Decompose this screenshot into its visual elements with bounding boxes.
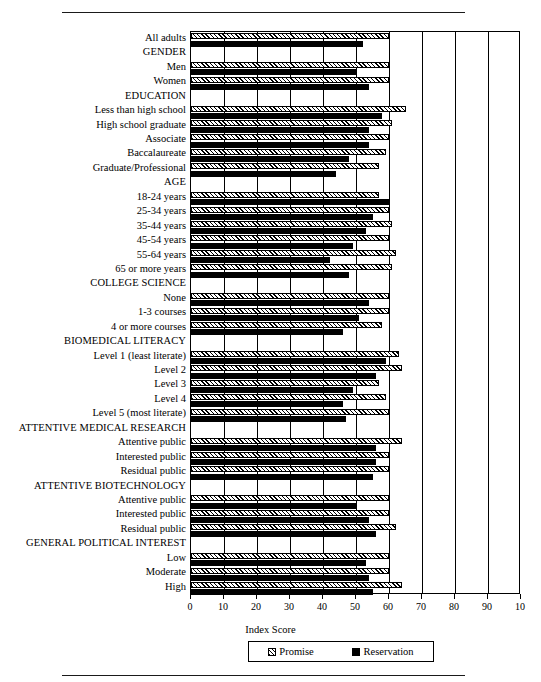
x-tick [223,594,224,599]
category-label: Level 1 (least literate) [0,349,186,363]
legend-label-reservation: Reservation [363,646,413,657]
x-tick-label: 90 [472,601,502,612]
chart-row [191,90,519,104]
x-axis-title: Index Score [0,624,541,635]
x-tick-label: 30 [274,601,304,612]
chart-row [191,119,519,133]
category-label: Attentive public [0,435,186,449]
plot-area [190,31,520,594]
chart-row [191,176,519,190]
chart-row [191,378,519,392]
category-label: None [0,291,186,305]
category-label: Level 3 [0,377,186,391]
category-label: Level 4 [0,392,186,406]
bar-promise [191,207,389,213]
category-label: BIOMEDICAL LITERACY [0,334,186,348]
chart-row [191,537,519,551]
category-label: Low [0,551,186,565]
bar-promise [191,192,379,198]
category-label: 55-64 years [0,248,186,262]
chart-row [191,508,519,522]
x-tick [487,594,488,599]
chart-row [191,32,519,46]
category-label: Interested public [0,450,186,464]
chart-row [191,552,519,566]
chart-row [191,350,519,364]
x-tick-label: 0 [175,601,205,612]
chart-row [191,436,519,450]
bar-promise [191,250,396,256]
x-tick [289,594,290,599]
bar-promise [191,149,386,155]
x-tick [355,594,356,599]
bar-promise [191,120,392,126]
category-label: 65 or more years [0,262,186,276]
category-label: 1-3 courses [0,305,186,319]
chart-row [191,205,519,219]
category-label: EDUCATION [0,89,186,103]
category-label: Attentive public [0,493,186,507]
category-label: Men [0,60,186,74]
promise-swatch-icon [268,648,276,656]
reservation-swatch-icon [352,648,360,656]
bar-promise [191,380,379,386]
chart-row [191,147,519,161]
category-label: GENERAL POLITICAL INTEREST [0,536,186,550]
category-label: Graduate/Professional [0,161,186,175]
category-label: Women [0,74,186,88]
category-label: Associate [0,132,186,146]
category-label: Interested public [0,507,186,521]
bar-promise [191,264,392,270]
chart-row [191,566,519,580]
bar-promise [191,235,389,241]
category-label: Residual public [0,522,186,536]
category-label: Level 5 (most literate) [0,406,186,420]
category-label: 45-54 years [0,233,186,247]
chart-row [191,277,519,291]
category-label: 18-24 years [0,190,186,204]
bar-promise [191,221,392,227]
x-tick [388,594,389,599]
chart-row [191,306,519,320]
x-tick-label: 50 [340,601,370,612]
bar-promise [191,409,389,415]
bar-promise [191,163,379,169]
legend-item-reservation: Reservation [352,646,413,657]
x-tick-label: 40 [307,601,337,612]
legend: Promise Reservation [248,641,434,662]
x-tick [454,594,455,599]
x-tick [520,594,521,599]
bar-promise [191,452,389,458]
chart-row [191,249,519,263]
chart-row [191,46,519,60]
bar-promise [191,106,406,112]
bar-promise [191,33,389,39]
chart-row [191,321,519,335]
x-tick-label: 10 [208,601,238,612]
category-label: 25-34 years [0,204,186,218]
x-tick [256,594,257,599]
category-label: 4 or more courses [0,320,186,334]
bar-promise [191,524,396,530]
category-label: 35-44 years [0,219,186,233]
bar-promise [191,308,389,314]
chart-row [191,220,519,234]
category-label: Less than high school [0,103,186,117]
category-label: AGE [0,175,186,189]
bar-promise [191,322,382,328]
chart-row [191,523,519,537]
chart-row [191,581,519,595]
chart-row [191,393,519,407]
x-tick-label: 80 [439,601,469,612]
bar-promise [191,510,389,516]
bar-promise [191,293,389,299]
bar-promise [191,438,402,444]
bar-promise [191,553,389,559]
x-tick-label: 60 [373,601,403,612]
category-label: COLLEGE SCIENCE [0,276,186,290]
chart-row [191,75,519,89]
chart-row [191,292,519,306]
bar-promise [191,394,386,400]
category-label: GENDER [0,45,186,59]
category-label: High school graduate [0,118,186,132]
